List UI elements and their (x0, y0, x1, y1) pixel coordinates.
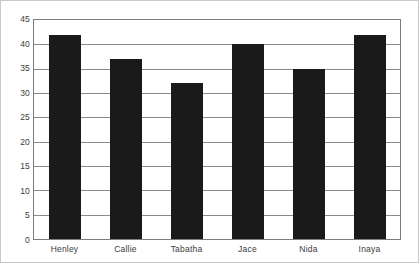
bar[interactable] (293, 69, 325, 239)
bar-slot (339, 20, 400, 239)
bar-slot (217, 20, 278, 239)
x-axis-category-label: Jace (217, 244, 278, 254)
y-axis-tick-label: 35 (1, 64, 30, 73)
y-axis-tick-labels: 454035302520151050 (1, 19, 30, 240)
bars-container (34, 20, 400, 239)
y-axis-tick-label: 10 (1, 186, 30, 195)
y-axis-tick-label: 15 (1, 162, 30, 171)
bar[interactable] (171, 83, 203, 239)
y-axis-tick-label: 25 (1, 113, 30, 122)
y-axis-tick-label: 40 (1, 39, 30, 48)
bar-slot (34, 20, 95, 239)
bar-slot (278, 20, 339, 239)
y-axis-tick-label: 45 (1, 15, 30, 24)
bar[interactable] (232, 44, 264, 239)
x-axis-category-labels: HenleyCallieTabathaJaceNidaInaya (34, 244, 400, 254)
y-axis-tick-label: 0 (1, 236, 30, 245)
y-axis-tick-label: 20 (1, 137, 30, 146)
bar-slot (156, 20, 217, 239)
bar-slot (95, 20, 156, 239)
bar[interactable] (354, 35, 386, 239)
y-axis-tick-label: 5 (1, 211, 30, 220)
x-axis-category-label: Callie (95, 244, 156, 254)
x-axis-category-label: Inaya (339, 244, 400, 254)
x-axis-category-label: Tabatha (156, 244, 217, 254)
x-axis-category-label: Henley (34, 244, 95, 254)
bar-chart-screenshot: 454035302520151050 HenleyCallieTabathaJa… (0, 0, 419, 263)
bar[interactable] (110, 59, 142, 239)
y-axis-tick-label: 30 (1, 88, 30, 97)
bar[interactable] (49, 35, 81, 239)
x-axis-category-label: Nida (278, 244, 339, 254)
